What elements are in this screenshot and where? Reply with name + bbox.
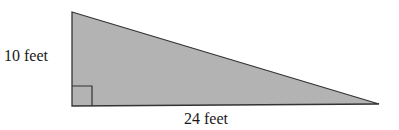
triangle-diagram: 10 feet 24 feet [0,0,399,130]
base-label: 24 feet [184,110,229,127]
height-label: 10 feet [4,47,49,64]
right-triangle [72,12,379,106]
